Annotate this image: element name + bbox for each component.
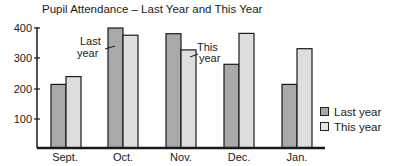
legend-label: This year <box>334 121 381 133</box>
tick-label-100: 100 <box>14 113 32 125</box>
legend-item-this-year: This year <box>320 119 381 134</box>
y-ticks: 100 200 300 400 <box>14 22 40 125</box>
category-label: Oct. <box>113 151 133 163</box>
bar-this-year <box>239 33 254 148</box>
bar-last-year <box>51 84 66 148</box>
tick-label-400: 400 <box>14 22 32 34</box>
svg-text:Last: Last <box>80 35 101 47</box>
bar-this-year <box>123 35 138 148</box>
category-label: Jan. <box>287 151 308 163</box>
svg-text:year: year <box>77 47 99 59</box>
bar-this-year <box>181 50 196 148</box>
chart-plot: 100 200 300 400 Sept. Oct. Nov. Dec. Jan… <box>0 0 401 166</box>
legend: Last year This year <box>320 104 381 134</box>
bar-last-year <box>108 28 123 148</box>
bar-last-year <box>282 84 297 148</box>
bar-last-year <box>166 34 181 148</box>
bar-this-year <box>297 49 312 148</box>
bar-last-year <box>224 64 239 148</box>
svg-text:year: year <box>199 52 221 64</box>
x-labels: Sept. Oct. Nov. Dec. Jan. <box>52 151 307 163</box>
tick-label-200: 200 <box>14 83 32 95</box>
legend-label: Last year <box>334 106 381 118</box>
category-label: Dec. <box>228 151 251 163</box>
legend-item-last-year: Last year <box>320 104 381 119</box>
legend-swatch-last-year <box>320 107 329 116</box>
legend-swatch-this-year <box>320 122 329 131</box>
tick-label-300: 300 <box>14 52 32 64</box>
bar-this-year <box>66 77 81 148</box>
category-label: Sept. <box>52 151 78 163</box>
category-label: Nov. <box>170 151 192 163</box>
